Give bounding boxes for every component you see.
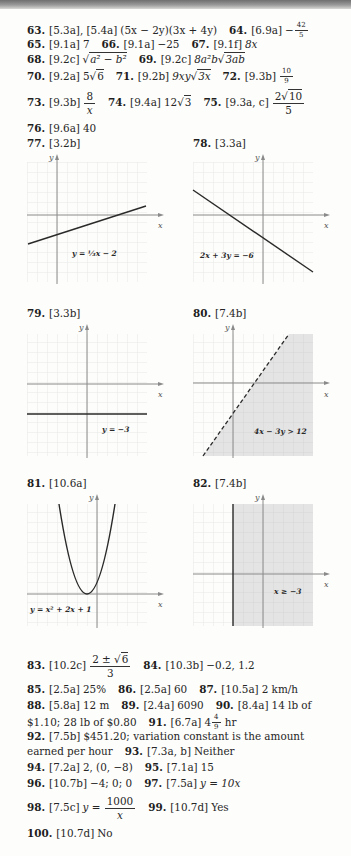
answer-number: 97.: [144, 777, 162, 789]
answer-value: $1.10; 28 lb of $0.80: [27, 716, 137, 728]
answer-number: 70.: [27, 70, 45, 82]
answer-fraction: 8x: [84, 91, 95, 115]
answer-coefficient: 12: [164, 96, 177, 108]
svg-text:x: x: [324, 580, 329, 589]
svg-text:x: x: [324, 390, 329, 399]
answer-coefficient: 8a²b: [194, 53, 218, 65]
graph-equation: y = x² + 2x + 1: [29, 605, 92, 614]
page-top-edge: [0, 0, 351, 9]
section-ref: [7.3a, b]: [147, 745, 191, 757]
answer-number: 63.: [27, 24, 45, 36]
answer-fraction: 2√105: [273, 91, 304, 115]
section-ref: [10.7d]: [170, 801, 208, 813]
answer-value: 15: [201, 761, 214, 773]
section-ref: [8.4a]: [238, 699, 269, 711]
answer-number: 96.: [27, 777, 45, 789]
graph-label-78: 78.[3.3a]: [193, 137, 246, 150]
graph-77: y x y = ⅓x − 2: [22, 152, 172, 292]
answer-fraction: 425: [295, 22, 308, 39]
section-ref: [7.5c]: [49, 801, 79, 813]
graph-label-82: 82.[7.4b]: [193, 477, 246, 490]
answer-number: 89.: [121, 699, 139, 711]
graph-label-80: 80.[7.4b]: [193, 307, 246, 320]
answer-value: (5x − 2y)(3x + 4y): [120, 24, 217, 36]
section-ref: [9.1a]: [124, 38, 155, 50]
answer-value: Yes: [211, 801, 228, 813]
graph-equation: 2x + 3y = −6: [199, 251, 255, 260]
svg-text:y: y: [254, 493, 260, 502]
answer-whole: 4: [204, 716, 211, 728]
answer-radicand: 6: [96, 69, 104, 82]
section-ref: [5.3a], [5.4a]: [49, 24, 117, 36]
graph-equation: x ≥ −3: [273, 587, 301, 596]
graph-equation: 4x − 3y > 12: [254, 427, 307, 436]
graph-equation: y = ⅓x − 2: [71, 249, 117, 258]
section-ref: [7.1a]: [167, 761, 198, 773]
answer-value: 6090: [177, 699, 203, 711]
answer-value: −0.2, 1.2: [206, 659, 254, 671]
answer-value: No: [97, 827, 112, 839]
answer-line-70-72: 70.[9.2a]5√671.[9.2b]9xy√3x72.[9.3b]109: [27, 68, 294, 85]
section-ref: [9.2c]: [161, 53, 191, 65]
answer-line-90-91: $1.10; 28 lb of $0.8091.[6.7a]449 hr: [27, 714, 237, 731]
svg-text:x: x: [158, 390, 163, 399]
section-ref: [9.1f]: [213, 38, 241, 50]
answer-radicand: a² − b²: [89, 52, 127, 65]
answer-radicand: 3: [184, 95, 192, 108]
answer-number: 64.: [229, 24, 247, 36]
section-ref: [10.7d]: [56, 827, 94, 839]
answer-line-96-97: 96.[10.7b]−4; 0; 097.[7.5a]y = 10x: [27, 777, 240, 790]
answer-number: 93.: [125, 745, 143, 757]
graph-79: y x y = −3: [22, 322, 172, 467]
answer-value: 8x: [245, 38, 257, 50]
answer-value: 25%: [83, 683, 106, 695]
answer-coefficient: 9xy: [172, 70, 190, 82]
answer-radicand: 3x: [197, 69, 210, 82]
graph-78: y x 2x + 3y = −6: [188, 152, 338, 292]
answer-line-76: 76.[9.6a]40: [27, 122, 96, 135]
answer-line-98-99: 98.[7.5c]y = 1000x99.[10.7d]Yes: [27, 793, 229, 821]
answer-number: 91.: [149, 716, 167, 728]
answer-unit: hr: [225, 716, 237, 728]
graph-82: y x x ≥ −3: [188, 492, 338, 637]
answer-number: 84.: [143, 659, 161, 671]
answer-number: 68.: [27, 53, 45, 65]
answer-coefficient: 5: [83, 70, 90, 82]
section-ref: [9.3b]: [245, 70, 276, 82]
section-ref: [9.6a]: [49, 122, 80, 134]
section-ref: [9.1a]: [49, 38, 80, 50]
answer-number: 74.: [108, 96, 126, 108]
section-ref: [7.5b]: [49, 730, 80, 742]
section-ref: [7.2a]: [49, 761, 80, 773]
svg-text:x: x: [158, 221, 163, 230]
answer-value: 7: [83, 38, 90, 50]
answer-number: 71.: [116, 70, 134, 82]
section-ref: [10.5a]: [221, 683, 258, 695]
answer-value: y = 10x: [200, 777, 240, 789]
answer-fraction: 109: [280, 68, 293, 85]
svg-text:y: y: [224, 323, 230, 332]
answer-number: 88.: [27, 699, 45, 711]
svg-text:y: y: [254, 153, 260, 162]
section-ref: [7.5a]: [166, 777, 197, 789]
section-ref: [9.3b]: [49, 96, 80, 108]
answer-value: earned per hour: [27, 745, 113, 757]
answer-line-63-64: 63.[5.3a], [5.4a](5x − 2y)(3x + 4y)64.[6…: [27, 22, 309, 39]
answer-value: $451.20; variation constant is the amoun…: [83, 730, 304, 742]
answer-value: 40: [83, 122, 96, 134]
answer-value: 2 km/h: [262, 683, 298, 695]
answer-value: Neither: [194, 745, 235, 757]
answer-fraction: 49: [212, 714, 220, 731]
answer-lhs: y =: [83, 801, 101, 813]
answer-value: 2, (0, −8): [83, 761, 133, 773]
answer-fraction: 2 ± √63: [90, 654, 130, 678]
answer-number: 73.: [27, 96, 45, 108]
answer-line-85-87: 85.[2.5a]25%86.[2.5a]6087.[10.5a]2 km/h: [27, 683, 298, 696]
graph-label-77: 77.[3.2b]: [27, 137, 80, 150]
answer-line-65-67: 65.[9.1a]766.[9.1a]−2567.[9.1f]8x: [27, 38, 257, 51]
section-ref: [10.3b]: [165, 659, 203, 671]
graph-label-81: 81.[10.6a]: [27, 477, 87, 490]
answer-number: 87.: [199, 683, 217, 695]
section-ref: [9.4a]: [130, 96, 161, 108]
answer-line-92: 92.[7.5b]$451.20; variation constant is …: [27, 730, 304, 743]
